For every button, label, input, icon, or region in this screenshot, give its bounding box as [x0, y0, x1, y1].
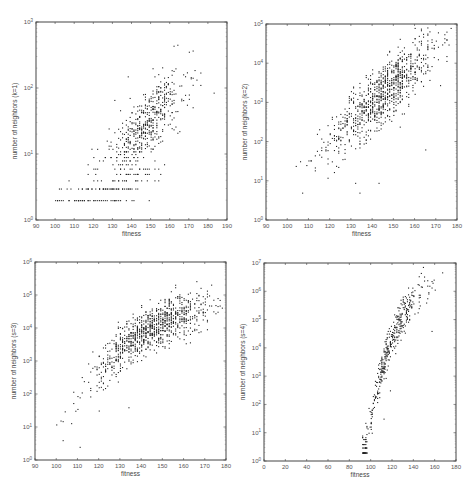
data-points: [56, 281, 223, 448]
plot-frame: [35, 262, 226, 460]
y-axis-label: number of neighbors (k=2): [241, 84, 249, 160]
x-tick-label: 80: [346, 464, 353, 470]
data-points: [55, 45, 215, 202]
y-tick-label: 101: [23, 423, 33, 431]
x-tick-label: 180: [221, 463, 232, 469]
y-tick-label: 102: [252, 400, 262, 408]
y-tick-label: 101: [254, 176, 264, 184]
x-tick-label: 140: [136, 463, 147, 469]
y-tick-label: 104: [252, 343, 262, 351]
x-tick-label: 20: [282, 464, 289, 470]
x-axis-label: fitness: [121, 470, 141, 477]
x-tick-label: 160: [165, 223, 176, 229]
x-tick-label: 100: [50, 223, 61, 229]
y-tick-label: 101: [24, 150, 34, 158]
y-tick-label: 103: [254, 98, 264, 106]
x-tick-label: 140: [408, 464, 419, 470]
y-tick-label: 103: [24, 18, 34, 26]
y-tick-label: 100: [23, 456, 33, 464]
x-tick-label: 120: [387, 464, 398, 470]
y-tick-label: 100: [254, 216, 264, 224]
y-tick-label: 103: [23, 357, 33, 365]
y-axis-label: number of neighbors (k=1): [11, 83, 19, 159]
x-tick-label: 90: [263, 223, 270, 229]
x-tick-label: 120: [325, 223, 336, 229]
y-axis: 100101102103104105: [254, 20, 457, 224]
x-axis-label: fitness: [352, 230, 372, 237]
y-tick-label: 101: [252, 428, 262, 436]
x-tick-label: 170: [184, 223, 195, 229]
x-axis: 020406080100120140160180: [262, 263, 461, 470]
y-tick-label: 102: [23, 390, 33, 398]
x-tick-label: 150: [388, 223, 399, 229]
y-tick-label: 104: [23, 324, 33, 332]
x-tick-label: 150: [146, 223, 157, 229]
x-tick-label: 60: [325, 464, 332, 470]
y-tick-label: 103: [252, 372, 262, 380]
x-axis-label: fitness: [122, 230, 142, 237]
x-tick-label: 0: [262, 464, 266, 470]
x-tick-label: 140: [367, 223, 378, 229]
y-tick-label: 105: [23, 291, 33, 299]
x-tick-label: 100: [282, 223, 293, 229]
y-axis: 100101102103104105106107: [252, 259, 456, 465]
x-tick-label: 110: [69, 223, 79, 229]
x-tick-label: 110: [73, 463, 83, 469]
plot-frame: [264, 263, 456, 461]
y-tick-label: 104: [254, 59, 264, 67]
x-tick-label: 180: [203, 223, 214, 229]
y-tick-label: 100: [252, 457, 262, 465]
x-axis: 90100110120130140150160170180: [263, 24, 463, 229]
x-tick-label: 160: [430, 464, 441, 470]
x-tick-label: 110: [304, 223, 314, 229]
x-tick-label: 120: [94, 463, 105, 469]
x-tick-label: 150: [157, 463, 168, 469]
x-axis-label: fitness: [351, 471, 371, 478]
y-tick-label: 102: [254, 137, 264, 145]
x-tick-label: 100: [51, 463, 62, 469]
panel-k2: 90100110120130140150160170180fitness1001…: [241, 20, 463, 238]
scatter-figure: 90100110120130140150160170180190fitness1…: [0, 0, 476, 485]
x-tick-label: 120: [88, 223, 99, 229]
x-tick-label: 180: [452, 223, 463, 229]
y-tick-label: 106: [252, 287, 262, 295]
x-tick-label: 130: [115, 463, 126, 469]
x-tick-label: 90: [33, 223, 40, 229]
plot-frame: [36, 22, 227, 220]
y-tick-label: 100: [24, 216, 34, 224]
x-tick-label: 90: [32, 463, 39, 469]
x-axis: 90100110120130140150160170180190: [33, 22, 233, 229]
y-tick-label: 107: [252, 259, 262, 267]
panel-k3: 90100110120130140150160170180fitness1001…: [10, 258, 232, 478]
y-tick-label: 102: [24, 84, 34, 92]
x-tick-label: 170: [200, 463, 211, 469]
x-tick-label: 170: [431, 223, 442, 229]
x-tick-label: 180: [451, 464, 462, 470]
y-tick-label: 105: [252, 315, 262, 323]
data-points: [362, 267, 443, 454]
x-tick-label: 130: [107, 223, 118, 229]
plot-frame: [266, 24, 457, 220]
panel-k4: 020406080100120140160180fitness100101102…: [239, 259, 462, 479]
panel-k1: 90100110120130140150160170180190fitness1…: [11, 18, 233, 238]
y-axis: 100101102103: [24, 18, 227, 224]
x-tick-label: 140: [126, 223, 137, 229]
y-axis: 100101102103104105106: [23, 258, 226, 464]
y-axis-label: number of neighbors (s=4): [239, 324, 247, 400]
x-tick-label: 190: [222, 223, 233, 229]
x-tick-label: 100: [366, 464, 377, 470]
figure: 90100110120130140150160170180190fitness1…: [0, 0, 476, 485]
x-tick-label: 160: [410, 223, 421, 229]
data-points: [296, 27, 452, 193]
x-tick-label: 130: [346, 223, 357, 229]
x-tick-label: 160: [179, 463, 190, 469]
y-tick-label: 105: [254, 20, 264, 28]
y-axis-label: number of neighbors (s=3): [10, 323, 18, 399]
x-axis: 90100110120130140150160170180: [32, 262, 232, 469]
x-tick-label: 40: [303, 464, 310, 470]
y-tick-label: 106: [23, 258, 33, 266]
